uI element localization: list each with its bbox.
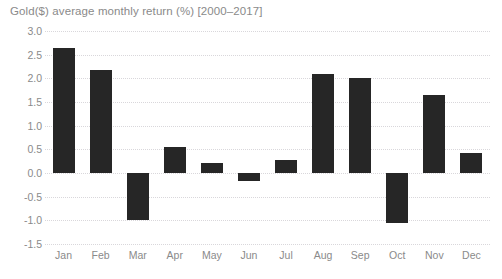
- chart-container: Gold($) average monthly return (%) [2000…: [0, 0, 502, 279]
- y-axis-tick-label: 0.0: [2, 167, 42, 179]
- bar-sep: [349, 78, 371, 173]
- bar-oct: [386, 173, 408, 223]
- y-axis-tick-label: 2.0: [2, 72, 42, 84]
- y-axis-tick-label: 1.0: [2, 120, 42, 132]
- gridline: [45, 31, 490, 32]
- y-axis-tick-label: -0.5: [2, 191, 42, 203]
- bar-apr: [164, 147, 186, 173]
- gridline: [45, 197, 490, 198]
- gridline: [45, 78, 490, 79]
- x-axis-tick-label: Dec: [441, 249, 501, 261]
- y-axis-tick-label: -1.0: [2, 214, 42, 226]
- bar-may: [201, 163, 223, 173]
- y-axis-labels: 3.02.52.01.51.00.50.0-0.5-1.0-1.5: [0, 31, 42, 244]
- y-axis-tick-label: 0.5: [2, 143, 42, 155]
- y-axis-tick-label: 2.5: [2, 49, 42, 61]
- gridline: [45, 220, 490, 221]
- plot-area: [45, 31, 490, 244]
- bar-feb: [90, 70, 112, 173]
- bar-nov: [423, 95, 445, 173]
- y-axis-tick-label: 3.0: [2, 25, 42, 37]
- bar-dec: [460, 153, 482, 173]
- bar-mar: [127, 173, 149, 220]
- gridline: [45, 173, 490, 174]
- y-axis-tick-label: 1.5: [2, 96, 42, 108]
- bar-jan: [53, 48, 75, 173]
- bar-jun: [238, 173, 260, 181]
- bar-aug: [312, 74, 334, 173]
- bar-jul: [275, 160, 297, 173]
- gridline: [45, 244, 490, 245]
- chart-title: Gold($) average monthly return (%) [2000…: [10, 5, 263, 17]
- gridline: [45, 55, 490, 56]
